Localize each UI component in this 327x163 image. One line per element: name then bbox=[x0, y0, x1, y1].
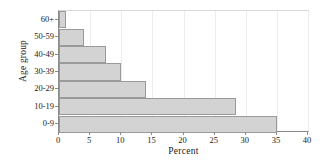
x-tick-label-30: 30 bbox=[241, 135, 250, 145]
bar-chart: Age group 0-910-1920-2930-3940-4950-5960… bbox=[0, 0, 327, 163]
plot-area bbox=[58, 10, 309, 132]
x-tick-label-15: 15 bbox=[147, 135, 156, 145]
x-axis-ticks: 0510152025303540 bbox=[58, 132, 309, 146]
y-tick-mark bbox=[55, 19, 58, 20]
x-tick-label-20: 20 bbox=[178, 135, 187, 145]
bar-0-9 bbox=[59, 116, 277, 133]
x-tick-label-40: 40 bbox=[303, 135, 312, 145]
bar-30-39 bbox=[59, 63, 121, 80]
x-tick-label-10: 10 bbox=[116, 135, 125, 145]
y-tick-mark bbox=[55, 88, 58, 89]
bar-series bbox=[59, 11, 308, 131]
x-tick-label-35: 35 bbox=[272, 135, 281, 145]
y-tick-mark bbox=[55, 123, 58, 124]
y-tick-label-50-59: 50-59 bbox=[6, 31, 54, 41]
y-tick-mark bbox=[55, 36, 58, 37]
x-tick-label-25: 25 bbox=[209, 135, 218, 145]
x-tick-label-0: 0 bbox=[56, 135, 60, 145]
y-tick-label-40-49: 40-49 bbox=[6, 49, 54, 59]
y-tick-label-30-39: 30-39 bbox=[6, 66, 54, 76]
y-tick-mark bbox=[55, 54, 58, 55]
y-tick-label-20-29: 20-29 bbox=[6, 83, 54, 93]
y-tick-label-60+: 60+ bbox=[6, 14, 54, 24]
x-tick-label-5: 5 bbox=[87, 135, 91, 145]
y-tick-mark bbox=[55, 106, 58, 107]
bar-20-29 bbox=[59, 81, 146, 98]
x-axis-title: Percent bbox=[58, 146, 309, 156]
y-tick-mark bbox=[55, 71, 58, 72]
y-axis-tick-labels: 0-910-1920-2930-3940-4950-5960+ bbox=[4, 0, 54, 163]
bar-40-49 bbox=[59, 46, 106, 63]
bar-10-19 bbox=[59, 98, 236, 115]
bar-50-59 bbox=[59, 29, 84, 46]
gridline bbox=[308, 11, 309, 131]
bar-60+ bbox=[59, 11, 66, 28]
y-tick-label-0-9: 0-9 bbox=[6, 118, 54, 128]
y-tick-label-10-19: 10-19 bbox=[6, 101, 54, 111]
